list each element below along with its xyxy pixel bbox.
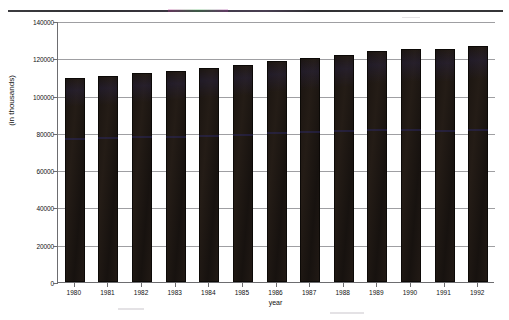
scan-streak [267, 132, 287, 134]
y-axis-tick [53, 246, 58, 247]
scan-streak [199, 135, 219, 137]
x-axis-tick-label: 1991 [436, 289, 450, 296]
bar [132, 73, 152, 282]
scan-streak [367, 129, 387, 131]
x-axis-title: year [57, 299, 494, 306]
bar-chart: (in thousands) 0200004000060000800001000… [0, 0, 509, 320]
scan-streak [468, 129, 488, 131]
y-axis-tick-label: 20000 [36, 242, 54, 249]
x-axis-tick-label: 1992 [470, 289, 484, 296]
scan-streak [65, 138, 85, 140]
x-axis-tick [74, 283, 75, 287]
y-axis-tick-label: 40000 [36, 205, 54, 212]
y-axis-tick [53, 208, 58, 209]
bar [367, 51, 387, 282]
scan-streak [132, 136, 152, 138]
y-axis-tick [53, 134, 58, 135]
x-axis-tick-label: 1987 [302, 289, 316, 296]
x-axis-tick-label: 1986 [268, 289, 282, 296]
x-axis-tick [141, 283, 142, 287]
x-axis-tick-label: 1990 [403, 289, 417, 296]
x-axis-tick [376, 283, 377, 287]
x-axis-tick [276, 283, 277, 287]
bar [166, 71, 186, 282]
x-axis-tick-label: 1982 [134, 289, 148, 296]
scan-streak [401, 129, 421, 131]
scan-streak [166, 136, 186, 138]
scan-streak [233, 134, 253, 136]
y-axis-tick [53, 171, 58, 172]
x-axis-tick [410, 283, 411, 287]
y-axis-tick-labels: 020000400006000080000100000120000140000 [0, 22, 54, 283]
bar [401, 49, 421, 282]
x-axis-tick [343, 283, 344, 287]
x-axis-tick-label: 1988 [335, 289, 349, 296]
x-axis-tick [107, 283, 108, 287]
y-axis-tick-label: 100000 [33, 93, 54, 100]
y-axis-tick [53, 22, 58, 23]
x-axis-tick [208, 283, 209, 287]
bar [199, 68, 219, 282]
bar [65, 78, 85, 282]
bar [435, 49, 455, 282]
y-axis-tick [53, 59, 58, 60]
bar [300, 58, 320, 282]
scan-streak [98, 137, 118, 139]
scan-streak [300, 131, 320, 133]
y-axis-tick-label: 120000 [33, 56, 54, 63]
y-axis-tick-label: 60000 [36, 168, 54, 175]
bar [468, 46, 488, 282]
plot-area [57, 22, 494, 283]
bar [233, 65, 253, 282]
x-axis-tick-label: 1989 [369, 289, 383, 296]
y-axis-tick-label: 140000 [33, 19, 54, 26]
scan-streak [435, 130, 455, 132]
x-axis-ticks [57, 283, 494, 288]
y-axis-tick [53, 97, 58, 98]
scan-streak [334, 130, 354, 132]
bar [98, 76, 118, 282]
x-axis-tick-label: 1980 [67, 289, 81, 296]
x-axis-tick [477, 283, 478, 287]
x-axis-tick-label: 1985 [235, 289, 249, 296]
x-axis-tick-label: 1983 [167, 289, 181, 296]
x-axis-tick-label: 1981 [100, 289, 114, 296]
y-axis-tick-label: 80000 [36, 130, 54, 137]
bar [334, 55, 354, 282]
x-axis-tick-label: 1984 [201, 289, 215, 296]
x-axis-tick [444, 283, 445, 287]
x-axis-tick [309, 283, 310, 287]
x-axis-tick [242, 283, 243, 287]
bar [267, 61, 287, 282]
gridline [58, 22, 495, 23]
x-axis-tick [175, 283, 176, 287]
